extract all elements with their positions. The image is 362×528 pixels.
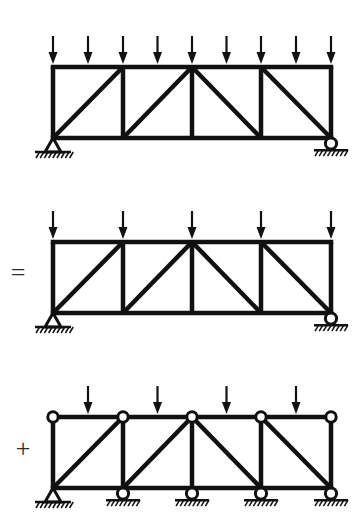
roller-support-circle — [255, 488, 266, 499]
roller-support-circle — [117, 488, 128, 499]
hinge-joint — [326, 412, 336, 422]
hinge-joint — [48, 412, 58, 422]
operator-equals: = — [11, 258, 26, 287]
roller-support-circle — [325, 488, 336, 499]
hinge-joint — [118, 412, 128, 422]
roller-support-circle — [186, 488, 197, 499]
hinge-joint — [256, 412, 266, 422]
hinge-joint — [187, 412, 197, 422]
roller-support-circle — [325, 138, 336, 149]
truss-superposition-figure: = + — [0, 0, 362, 528]
roller-support-circle — [325, 313, 336, 324]
operator-plus: + — [16, 434, 31, 463]
